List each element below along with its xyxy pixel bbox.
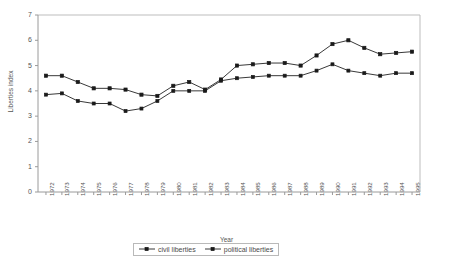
legend-marker-icon (205, 245, 221, 253)
legend-entry-political-liberties: political liberties (205, 245, 273, 253)
data-point-political-liberties-1983 (219, 78, 222, 81)
legend-marker-icon (139, 245, 155, 253)
data-point-civil-liberties-1993 (379, 74, 382, 77)
data-point-civil-liberties-1981 (188, 89, 191, 92)
data-point-political-liberties-1984 (235, 64, 238, 67)
data-point-political-liberties-1989 (315, 54, 318, 57)
data-point-civil-liberties-1972 (44, 93, 47, 96)
data-point-civil-liberties-1995 (411, 72, 414, 75)
data-point-civil-liberties-1976 (108, 102, 111, 105)
data-point-political-liberties-1981 (188, 80, 191, 83)
data-point-political-liberties-1990 (331, 42, 334, 45)
data-point-political-liberties-1974 (76, 80, 79, 83)
legend-label: civil liberties (158, 246, 196, 253)
data-point-political-liberties-1976 (108, 87, 111, 90)
data-point-political-liberties-1986 (267, 61, 270, 64)
data-point-political-liberties-1973 (60, 74, 63, 77)
data-point-political-liberties-1991 (347, 39, 350, 42)
data-point-civil-liberties-1992 (363, 72, 366, 75)
data-point-political-liberties-1985 (251, 63, 254, 66)
data-point-political-liberties-1994 (395, 51, 398, 54)
data-point-political-liberties-1988 (299, 64, 302, 67)
data-point-political-liberties-1980 (172, 84, 175, 87)
data-point-civil-liberties-1975 (92, 102, 95, 105)
data-point-civil-liberties-1987 (283, 74, 286, 77)
data-point-civil-liberties-1980 (172, 89, 175, 92)
data-point-political-liberties-1987 (283, 61, 286, 64)
data-point-political-liberties-1993 (379, 53, 382, 56)
liberties-index-line-chart: Liberties index Year 01234567 1972197319… (0, 0, 453, 263)
legend-entry-civil-liberties: civil liberties (139, 245, 196, 253)
data-point-civil-liberties-1984 (235, 77, 238, 80)
chart-legend: civil libertiespolitical liberties (133, 243, 279, 256)
data-point-political-liberties-1977 (124, 88, 127, 91)
data-point-civil-liberties-1991 (347, 69, 350, 72)
data-point-civil-liberties-1979 (156, 99, 159, 102)
series-line-political-liberties (46, 40, 412, 96)
data-point-political-liberties-1979 (156, 94, 159, 97)
plot-area (0, 0, 453, 263)
data-point-political-liberties-1992 (363, 46, 366, 49)
data-point-civil-liberties-1973 (60, 92, 63, 95)
data-point-civil-liberties-1978 (140, 107, 143, 110)
data-point-civil-liberties-1988 (299, 74, 302, 77)
legend-label: political liberties (224, 246, 273, 253)
data-point-political-liberties-1975 (92, 87, 95, 90)
series-line-civil-liberties (46, 64, 412, 111)
data-point-civil-liberties-1994 (395, 72, 398, 75)
data-point-political-liberties-1978 (140, 93, 143, 96)
data-point-civil-liberties-1985 (251, 75, 254, 78)
data-point-political-liberties-1972 (44, 74, 47, 77)
data-point-civil-liberties-1977 (124, 110, 127, 113)
data-point-political-liberties-1995 (410, 50, 413, 53)
data-point-civil-liberties-1986 (267, 74, 270, 77)
data-point-civil-liberties-1990 (331, 63, 334, 66)
data-point-political-liberties-1982 (204, 88, 207, 91)
data-point-civil-liberties-1989 (315, 69, 318, 72)
data-point-civil-liberties-1974 (76, 99, 79, 102)
